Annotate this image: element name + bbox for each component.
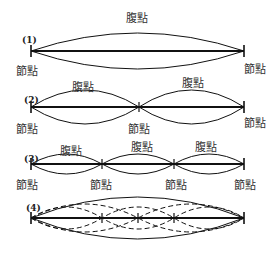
- diagram-2-index: (2): [24, 96, 39, 105]
- diagram-2-antinode-label-1: 腹點: [72, 82, 94, 93]
- diagram-2-node-label-left: 節點: [16, 124, 38, 135]
- diagram-1-antinode-label: 腹點: [126, 13, 148, 24]
- diagram-2-mode-2: [31, 90, 244, 124]
- diagram-1-node-label-right: 節點: [244, 64, 266, 75]
- diagram-3-antinode-label-3: 腹點: [195, 142, 217, 153]
- diagram-3-antinode-label-2: 腹點: [131, 142, 153, 153]
- diagram-2-antinode-label-2: 腹點: [182, 78, 204, 89]
- diagram-1-index: (1): [22, 36, 37, 45]
- diagram-1-node-label-left: 節點: [16, 66, 38, 77]
- diagram-3-node-label-1: 節點: [16, 180, 38, 191]
- diagram-3-index: (3): [24, 155, 39, 164]
- diagram-1-mode-1: [31, 33, 244, 69]
- diagram-2-node-label-right: 節點: [244, 118, 266, 129]
- diagram-4-index: (4): [26, 204, 41, 213]
- diagram-3-node-label-2: 節點: [90, 180, 112, 191]
- diagram-4-overlaid-modes: [31, 197, 244, 239]
- diagram-3-node-label-3: 節點: [165, 180, 187, 191]
- diagram-3-antinode-label-1: 腹點: [60, 146, 82, 157]
- diagram-3-node-label-4: 節點: [234, 180, 256, 191]
- diagram-2-node-label-middle: 節點: [128, 124, 150, 135]
